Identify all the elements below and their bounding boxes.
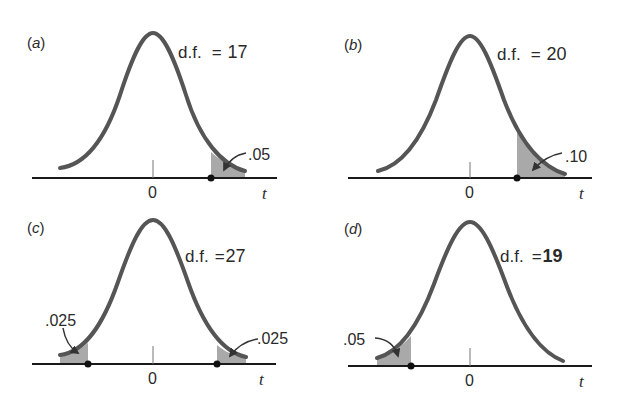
panel-label: (b) bbox=[344, 36, 362, 53]
panel-d: (d) d.f.=19 .05 0 t bbox=[343, 220, 592, 391]
critical-value-point-left bbox=[85, 361, 92, 368]
tail-area-label: .05 bbox=[248, 146, 270, 163]
panel-a: (a) d.f.=17 .05 0 t bbox=[27, 33, 277, 203]
df-annotation: d.f.=17 bbox=[178, 42, 248, 62]
panel-c: (c) d.f.=27 .025 .025 0 t bbox=[27, 219, 288, 389]
panel-label: (c) bbox=[27, 219, 45, 236]
tail-area-label-right: .025 bbox=[257, 330, 288, 347]
df-annotation: d.f.=27 bbox=[185, 246, 246, 266]
panel-label: (a) bbox=[27, 34, 45, 51]
critical-value-point bbox=[408, 363, 415, 370]
t-distribution-figure: (a) d.f.=17 .05 0 t (b) d.f.=20 .10 0 t … bbox=[0, 0, 617, 408]
zero-label: 0 bbox=[465, 184, 474, 201]
zero-label: 0 bbox=[465, 372, 474, 389]
critical-value-point-right bbox=[214, 361, 221, 368]
zero-label: 0 bbox=[148, 184, 157, 201]
axis-variable-label: t bbox=[579, 184, 585, 203]
df-annotation: d.f.=19 bbox=[500, 246, 563, 266]
panel-b: (b) d.f.=20 .10 0 t bbox=[344, 36, 592, 203]
tail-area-label: .10 bbox=[565, 148, 587, 165]
zero-label: 0 bbox=[148, 370, 157, 387]
tail-area-label: .05 bbox=[343, 331, 365, 348]
critical-value-point bbox=[514, 175, 521, 182]
t-density-curve bbox=[60, 220, 246, 357]
axis-variable-label: t bbox=[579, 372, 585, 391]
df-annotation: d.f.=20 bbox=[497, 44, 567, 64]
panel-label: (d) bbox=[344, 220, 362, 237]
t-density-curve bbox=[377, 222, 563, 361]
tail-area-label-left: .025 bbox=[45, 312, 76, 329]
critical-value-point bbox=[208, 175, 215, 182]
axis-variable-label: t bbox=[262, 184, 268, 203]
axis-variable-label: t bbox=[259, 370, 265, 389]
